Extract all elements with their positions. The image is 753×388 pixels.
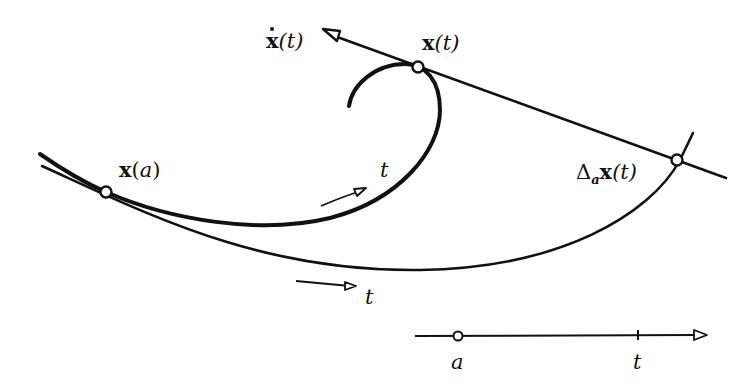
tangent-line (340, 38, 726, 178)
label-point-t-vec: x (422, 30, 435, 55)
axis-arrowhead-icon (694, 330, 707, 340)
label-difference-sub: a (591, 172, 599, 187)
label-point-a-open: ( (132, 158, 140, 182)
label-axis-t: t (633, 352, 641, 373)
label-point-t: x(t) (422, 32, 459, 54)
label-difference: Δax(t) (576, 161, 637, 183)
diagram-canvas (0, 0, 753, 388)
point-x-a (101, 187, 112, 198)
label-point-a-close: ) (152, 158, 160, 182)
label-velocity-vec: x (266, 30, 279, 51)
label-direction-lower: t (365, 287, 373, 308)
point-difference (672, 155, 683, 166)
label-direction-upper: t (380, 160, 388, 181)
label-difference-vec: x (600, 159, 613, 184)
label-difference-delta: Δ (576, 160, 591, 184)
velocity-arrowhead-icon (323, 29, 340, 41)
label-velocity: x(t) (266, 30, 303, 52)
trajectory-curve (40, 64, 440, 225)
direction-arrow-lower (296, 281, 350, 286)
point-x-t (413, 62, 424, 73)
label-point-a-var: a (140, 158, 153, 182)
direction-arrowhead-lower-icon (345, 282, 356, 290)
label-point-t-arg: (t) (435, 31, 460, 55)
direction-arrowhead-upper-icon (354, 188, 366, 196)
difference-curve (42, 133, 693, 270)
label-velocity-arg: (t) (279, 29, 304, 53)
label-point-a: x(a) (119, 159, 160, 181)
axis-point-a (454, 332, 463, 341)
label-difference-arg: (t) (612, 160, 637, 184)
label-point-a-vec: x (119, 157, 132, 182)
label-axis-a: a (451, 352, 464, 373)
